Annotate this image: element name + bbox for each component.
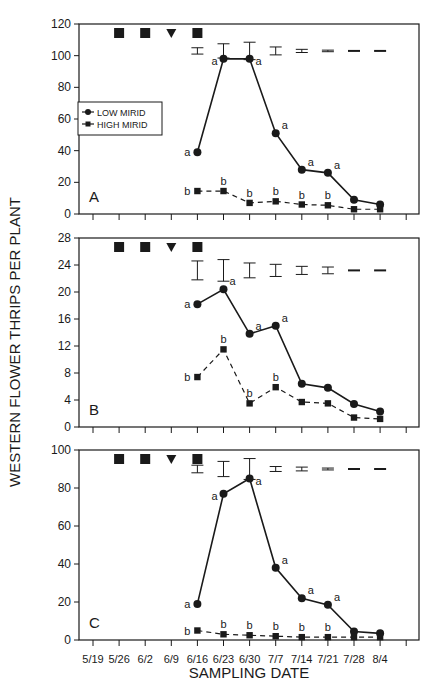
significance-letter: b — [184, 185, 190, 197]
significance-letter: b — [325, 189, 331, 201]
chart-canvas: 020406080100120AaaaaaabbbbbbLOW MIRIDHIG… — [0, 0, 432, 684]
significance-letter: b — [273, 371, 279, 383]
x-tick-label: 5/19 — [82, 653, 103, 665]
panel-a: 020406080100120AaaaaaabbbbbbLOW MIRIDHIG… — [51, 17, 419, 221]
x-axis: 5/195/266/26/96/166/236/307/77/147/217/2… — [82, 640, 406, 665]
square-data-point-icon — [194, 374, 200, 380]
significance-letter: b — [184, 625, 190, 637]
significance-letter: a — [308, 584, 315, 596]
significance-letter: b — [220, 333, 226, 345]
circle-data-point-icon — [193, 148, 201, 156]
square-data-point-icon — [377, 416, 383, 422]
y-tick-label: 40 — [58, 557, 72, 571]
triangle-down-marker-icon — [166, 243, 176, 252]
x-tick-label: 8/4 — [372, 653, 387, 665]
significance-letter: a — [184, 598, 191, 610]
circle-data-point-icon — [272, 322, 280, 330]
y-axis: 020406080100 — [51, 443, 79, 647]
y-tick-label: 4 — [64, 393, 71, 407]
error-bars — [191, 459, 386, 480]
square-data-point-icon — [194, 627, 200, 633]
series-high-mirid: bbbbbb — [184, 175, 383, 212]
square-data-point-icon — [325, 634, 331, 640]
circle-data-point-icon — [272, 564, 280, 572]
y-tick-label: 100 — [51, 443, 71, 457]
treatment-markers — [114, 28, 202, 38]
panel-c: 0204060801005/195/266/26/96/166/236/307/… — [51, 443, 419, 665]
significance-letter: a — [334, 159, 341, 171]
square-marker-icon — [114, 28, 124, 38]
square-data-point-icon — [220, 346, 226, 352]
treatment-markers — [114, 242, 202, 252]
y-tick-label: 24 — [58, 258, 72, 272]
circle-data-point-icon — [324, 169, 332, 177]
square-marker-icon — [114, 454, 124, 464]
x-tick-label: 7/21 — [317, 653, 338, 665]
x-tick-label: 7/28 — [343, 653, 364, 665]
square-data-point-icon — [246, 200, 252, 206]
series-low-mirid: aaaaaa — [184, 475, 384, 638]
y-tick-label: 60 — [58, 112, 72, 126]
y-tick-label: 0 — [64, 633, 71, 647]
square-data-point-icon — [299, 634, 305, 640]
y-tick-label: 60 — [58, 519, 72, 533]
legend-label: HIGH MIRID — [97, 120, 148, 130]
x-tick-label: 5/26 — [108, 653, 129, 665]
y-tick-label: 100 — [51, 49, 71, 63]
treatment-markers — [114, 454, 202, 464]
square-data-point-icon — [299, 399, 305, 405]
thrips-figure: 020406080100120AaaaaaabbbbbbLOW MIRIDHIG… — [0, 0, 432, 684]
circle-data-point-icon — [350, 196, 358, 204]
square-marker-icon — [114, 242, 124, 252]
square-marker-icon — [140, 454, 150, 464]
circle-data-point-icon — [246, 475, 254, 483]
significance-letter: b — [247, 187, 253, 199]
error-bars — [191, 260, 386, 282]
significance-letter: b — [325, 621, 331, 633]
square-data-point-icon — [220, 188, 226, 194]
significance-letter: b — [247, 387, 253, 399]
triangle-down-marker-icon — [166, 455, 176, 464]
square-marker-icon — [140, 242, 150, 252]
significance-letter: b — [273, 185, 279, 197]
significance-letter: a — [211, 490, 218, 502]
x-axis — [93, 427, 406, 433]
square-marker-icon — [192, 454, 202, 464]
series-low-mirid: aaaaaa — [184, 55, 384, 209]
square-data-point-icon — [273, 198, 279, 204]
square-marker-icon — [192, 242, 202, 252]
circle-data-point-icon — [220, 490, 228, 498]
square-data-point-icon — [273, 384, 279, 390]
significance-letter: a — [282, 554, 289, 566]
y-tick-label: 40 — [58, 144, 72, 158]
significance-letter: a — [230, 275, 237, 287]
square-marker-icon — [192, 28, 202, 38]
y-tick-label: 120 — [51, 17, 71, 31]
circle-data-point-icon — [298, 380, 306, 388]
circle-data-point-icon — [324, 384, 332, 392]
y-tick-label: 20 — [58, 175, 72, 189]
y-tick-label: 16 — [58, 312, 72, 326]
square-data-point-icon — [325, 202, 331, 208]
circle-data-point-icon — [350, 400, 358, 408]
significance-letter: a — [211, 55, 218, 67]
circle-data-point-icon — [246, 55, 254, 63]
square-data-point-icon — [351, 634, 357, 640]
circle-data-point-icon — [246, 330, 254, 338]
significance-letter: b — [220, 618, 226, 630]
series-line — [197, 349, 380, 419]
square-data-point-icon — [351, 206, 357, 212]
x-axis-title: SAMPLING DATE — [189, 664, 310, 681]
square-data-point-icon — [377, 634, 383, 640]
square-data-point-icon — [325, 400, 331, 406]
y-tick-label: 8 — [64, 366, 71, 380]
y-tick-label: 0 — [64, 207, 71, 221]
square-data-point-icon — [273, 633, 279, 639]
significance-letter: a — [256, 475, 263, 487]
circle-data-point-icon — [220, 285, 228, 293]
square-data-point-icon — [299, 201, 305, 207]
y-tick-label: 28 — [58, 231, 72, 245]
significance-letter: a — [184, 146, 191, 158]
significance-letter: b — [299, 189, 305, 201]
square-data-point-icon — [377, 206, 383, 212]
